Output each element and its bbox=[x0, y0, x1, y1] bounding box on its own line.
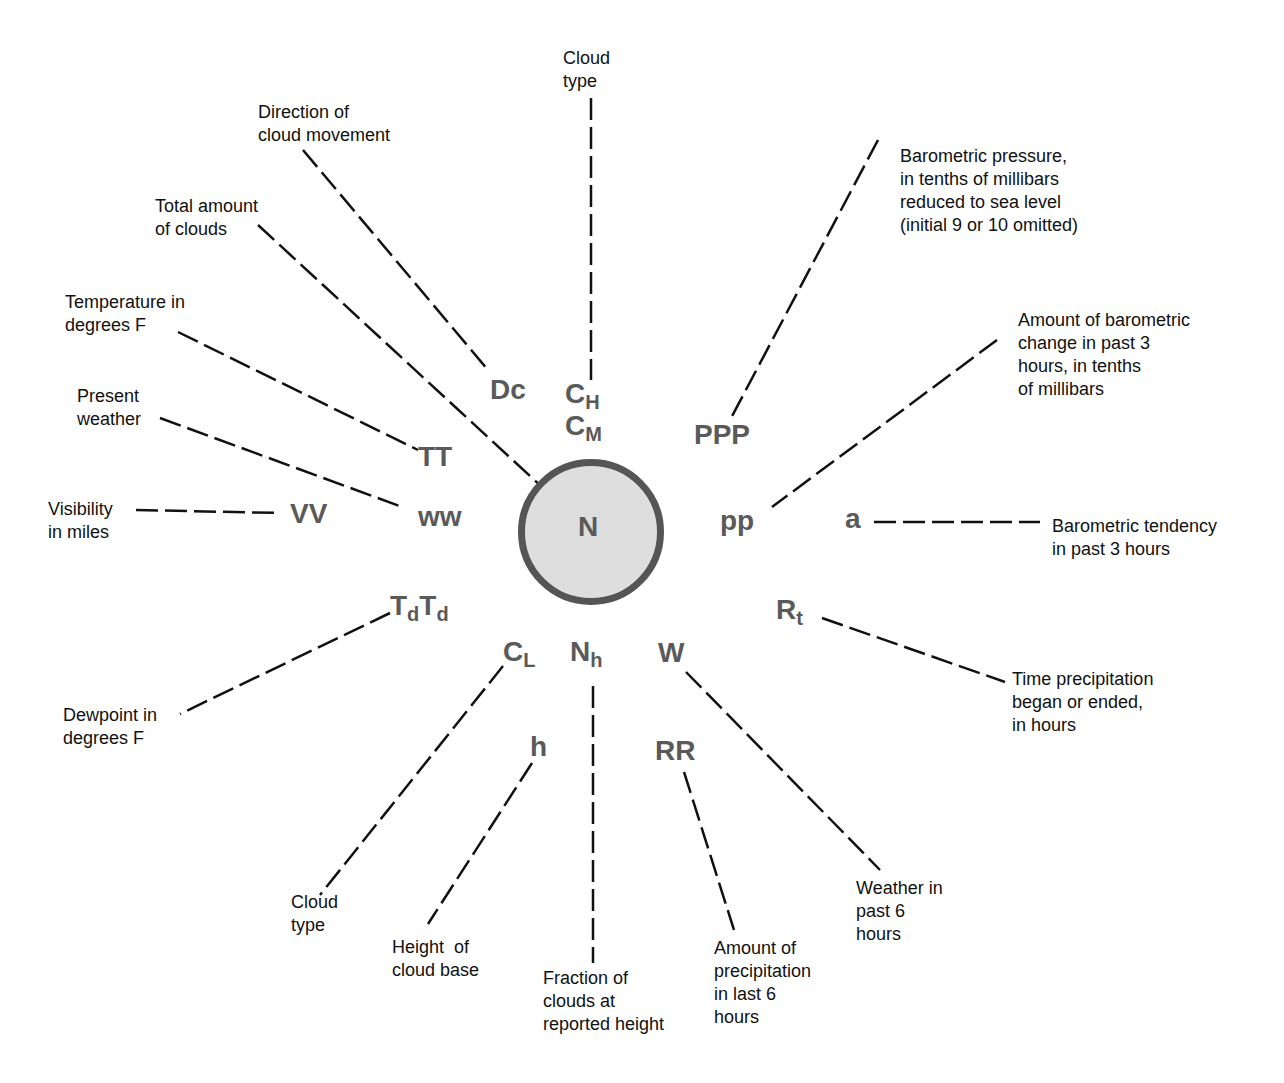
symbol-TT: TT bbox=[418, 443, 452, 471]
symbol-W: W bbox=[658, 639, 684, 667]
label-fraction-clouds: Fraction of clouds at reported height bbox=[543, 967, 664, 1036]
label-time-precipitation: Time precipitation began or ended, in ho… bbox=[1012, 668, 1153, 737]
symbol-TdTd: TdTd bbox=[390, 592, 449, 624]
label-barometric-change: Amount of barometric change in past 3 ho… bbox=[1018, 309, 1190, 401]
label-temperature: Temperature in degrees F bbox=[65, 291, 185, 337]
symbol-VV: VV bbox=[290, 500, 327, 528]
label-total-clouds: Total amount of clouds bbox=[155, 195, 258, 241]
symbol-Rt: Rt bbox=[776, 596, 803, 628]
symbol-CL: CL bbox=[503, 638, 535, 670]
symbol-pp: pp bbox=[720, 507, 754, 535]
label-barometric-tendency: Barometric tendency in past 3 hours bbox=[1052, 515, 1217, 561]
label-cloud-type-high: Cloud type bbox=[563, 47, 610, 93]
label-direction-cloud-movement: Direction of cloud movement bbox=[258, 101, 390, 147]
label-present-weather: Present weather bbox=[77, 385, 141, 431]
symbol-N: N bbox=[578, 513, 598, 541]
symbol-Nh: Nh bbox=[570, 638, 602, 670]
symbol-CH: CH bbox=[565, 380, 600, 412]
label-visibility: Visibility in miles bbox=[48, 498, 113, 544]
label-precipitation-amount: Amount of precipitation in last 6 hours bbox=[714, 937, 811, 1029]
label-dewpoint: Dewpoint in degrees F bbox=[63, 704, 157, 750]
label-barometric-pressure: Barometric pressure, in tenths of millib… bbox=[900, 145, 1078, 237]
symbol-h: h bbox=[530, 733, 547, 761]
symbol-PPP: PPP bbox=[694, 421, 750, 449]
station-model-diagram: N Dc CH CM PPP TT ww VV pp a TdTd Rt CL … bbox=[0, 0, 1284, 1083]
symbol-a: a bbox=[845, 505, 861, 533]
symbol-RR: RR bbox=[655, 737, 695, 765]
symbol-CM: CM bbox=[565, 412, 602, 444]
label-height-cloud-base: Height of cloud base bbox=[392, 936, 479, 982]
label-weather-past: Weather in past 6 hours bbox=[856, 877, 943, 946]
symbol-ww: ww bbox=[418, 503, 462, 531]
label-cloud-type-low: Cloud type bbox=[291, 891, 338, 937]
symbol-Dc: Dc bbox=[490, 376, 526, 404]
